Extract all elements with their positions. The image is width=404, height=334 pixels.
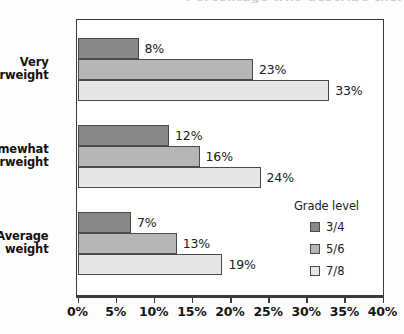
category-label-2: Somewhatoverweight <box>0 143 49 169</box>
bar-3-4-1[interactable] <box>78 38 139 59</box>
bar-row: 24% <box>78 167 383 188</box>
bar-3-4-3[interactable] <box>78 212 131 233</box>
bar-row: 33% <box>78 80 383 101</box>
legend-item-3-4[interactable]: 3/4 <box>310 220 380 234</box>
bar-7-8-1[interactable] <box>78 80 330 101</box>
bar-3-4-2[interactable] <box>78 125 170 146</box>
bar-row: 23% <box>78 59 383 80</box>
legend-swatch-icon-3-4 <box>310 222 320 232</box>
legend-title: Grade level <box>294 199 380 213</box>
bar-value-label: 23% <box>259 62 286 77</box>
bar-5-6-1[interactable] <box>78 59 253 80</box>
x-axis-tick <box>78 296 80 303</box>
legend-swatch-icon-7-8 <box>310 266 320 276</box>
category-label-1: Veryoverweight <box>0 56 49 82</box>
x-axis-tick <box>192 296 194 303</box>
x-axis-tick <box>344 296 346 303</box>
legend-label-3-4: 3/4 <box>326 220 345 234</box>
bar-value-label: 8% <box>145 41 165 56</box>
x-axis-tick <box>154 296 156 303</box>
bar-7-8-3[interactable] <box>78 254 223 275</box>
legend-label-7-8: 7/8 <box>326 264 345 278</box>
bar-value-label: 13% <box>183 236 210 251</box>
bar-5-6-3[interactable] <box>78 233 177 254</box>
chart-title: Percentage who describe themselves as ov… <box>186 0 402 3</box>
legend-item-7-8[interactable]: 7/8 <box>310 264 380 278</box>
x-axis-tick <box>383 296 385 303</box>
bar-value-label: 16% <box>206 149 233 164</box>
chart-page: Percentage who describe themselves as ov… <box>0 0 404 334</box>
bar-row: 16% <box>78 146 383 167</box>
bar-value-label: 12% <box>175 128 202 143</box>
legend-swatch-icon-5-6 <box>310 244 320 254</box>
bar-value-label: 33% <box>335 83 362 98</box>
x-axis-tick <box>230 296 232 303</box>
x-axis-tick-label: 40% <box>360 304 404 319</box>
legend-label-5-6: 5/6 <box>326 242 345 256</box>
legend-item-5-6[interactable]: 5/6 <box>310 242 380 256</box>
bar-value-label: 19% <box>228 257 255 272</box>
bar-5-6-2[interactable] <box>78 146 200 167</box>
x-axis-tick <box>306 296 308 303</box>
category-label-3: Averageweight <box>0 230 49 256</box>
bar-value-label: 7% <box>137 215 157 230</box>
bar-value-label: 24% <box>267 170 294 185</box>
x-axis-tick <box>268 296 270 303</box>
bar-7-8-2[interactable] <box>78 167 261 188</box>
bar-row: 12% <box>78 125 383 146</box>
bar-row: 8% <box>78 38 383 59</box>
chart-legend: Grade level 3/4 5/6 7/8 <box>294 199 380 286</box>
x-axis-tick <box>116 296 118 303</box>
